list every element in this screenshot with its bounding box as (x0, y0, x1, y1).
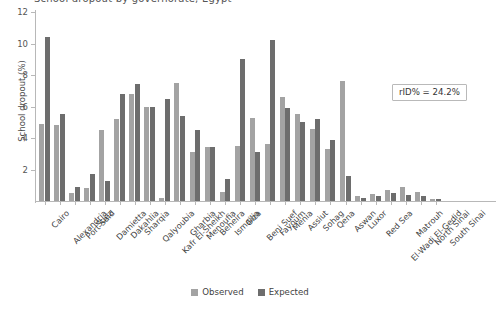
x-tick-mark (120, 201, 121, 205)
chart-container: School dropout by governorate, Egypt Sch… (0, 0, 500, 309)
bar-group (385, 12, 396, 201)
bar-expected (285, 108, 290, 201)
bar-expected (165, 99, 170, 201)
legend-label: Observed (202, 287, 243, 297)
bar-group (265, 12, 276, 201)
bar-group (54, 12, 65, 201)
bar-observed (114, 119, 119, 201)
bar-observed (400, 187, 405, 201)
bar-expected (255, 152, 260, 201)
bar-observed (205, 147, 210, 201)
x-tick-label: Aswan (351, 208, 377, 234)
x-tick-mark (421, 201, 422, 205)
x-tick-label: Damietta (114, 208, 148, 242)
bar-observed (39, 124, 44, 201)
bar-expected (315, 119, 320, 201)
bar-observed (190, 152, 195, 201)
x-tick-mark (135, 201, 136, 205)
bar-expected (210, 147, 215, 201)
bar-group (280, 12, 291, 201)
x-tick-mark (255, 201, 256, 205)
y-axis-label: School dropout (%) (17, 31, 27, 171)
x-tick-label: Suez (93, 208, 114, 229)
x-tick-mark (165, 201, 166, 205)
bar-series-group (36, 12, 496, 201)
bar-group (340, 12, 351, 201)
bar-observed (280, 97, 285, 201)
x-tick-label: Cairo (49, 208, 71, 230)
bar-observed (250, 118, 255, 201)
x-tick-mark (210, 201, 211, 205)
bar-observed (265, 144, 270, 201)
bar-observed (144, 107, 149, 202)
bar-group (69, 12, 80, 201)
legend-item[interactable]: Observed (191, 287, 243, 297)
x-tick-label: Beni Suef (265, 208, 300, 243)
bar-group (235, 12, 246, 201)
y-tick-label: 8 (2, 71, 28, 79)
bar-group (220, 12, 231, 201)
y-tick-label: 6 (2, 103, 28, 111)
x-tick-mark (285, 201, 286, 205)
bar-observed (355, 196, 360, 201)
bar-group (325, 12, 336, 201)
bar-observed (99, 130, 104, 201)
bar-observed (54, 125, 59, 201)
x-tick-mark (75, 201, 76, 205)
bar-group (355, 12, 366, 201)
bar-expected (270, 40, 275, 201)
bar-expected (120, 94, 125, 201)
bar-expected (60, 114, 65, 201)
bar-expected (195, 130, 200, 201)
bar-observed (415, 192, 420, 201)
x-tick-mark (361, 201, 362, 205)
bar-expected (45, 37, 50, 201)
bar-observed (84, 188, 89, 201)
x-tick-mark (346, 201, 347, 205)
x-tick-mark (300, 201, 301, 205)
x-tick-mark (391, 201, 392, 205)
plot-area (36, 12, 496, 201)
bar-group (129, 12, 140, 201)
bar-group (250, 12, 261, 201)
x-tick-mark (330, 201, 331, 205)
bar-group (39, 12, 50, 201)
x-tick-mark (180, 201, 181, 205)
x-tick-mark (195, 201, 196, 205)
bar-observed (174, 83, 179, 201)
bar-expected (240, 59, 245, 201)
x-tick-label: Menoufia (204, 208, 238, 242)
bar-observed (370, 194, 375, 201)
legend-item[interactable]: Expected (258, 287, 309, 297)
x-tick-label: Dakahlia (128, 208, 160, 240)
x-tick-label: Gharbia (187, 208, 217, 238)
bar-observed (325, 149, 330, 201)
bar-group (114, 12, 125, 201)
x-tick-mark (240, 201, 241, 205)
x-tick-mark (406, 201, 407, 205)
annotation-box: rID% = 24.2% (392, 84, 467, 101)
bar-expected (75, 187, 80, 201)
x-tick-label: South Sinai (447, 208, 487, 248)
x-tick-label: Fayoum (278, 208, 308, 238)
bar-observed (310, 129, 315, 201)
bar-expected (225, 179, 230, 201)
y-tick-label: 4 (2, 134, 28, 142)
bar-group (205, 12, 216, 201)
bar-group (159, 12, 170, 201)
bar-group (84, 12, 95, 201)
bar-group (144, 12, 155, 201)
legend-label: Expected (269, 287, 309, 297)
bar-expected (90, 174, 95, 201)
bar-group (430, 12, 441, 201)
chart-title: School dropout by governorate, Egypt (34, 0, 464, 5)
x-tick-mark (315, 201, 316, 205)
bar-expected (346, 176, 351, 201)
x-tick-mark (150, 201, 151, 205)
bar-observed (340, 81, 345, 201)
x-tick-mark (225, 201, 226, 205)
x-tick-label: El-Wadi El-Gedid (408, 208, 463, 263)
chart-legend: ObservedExpected (0, 287, 500, 297)
x-tick-label: Qalyoubia (160, 208, 196, 244)
x-tick-mark (60, 201, 61, 205)
